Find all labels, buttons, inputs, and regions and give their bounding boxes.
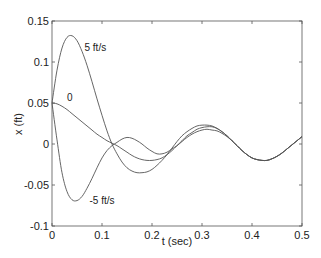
series-annotation: 5 ft/s	[85, 42, 107, 53]
x-tick-label: 0.5	[294, 229, 309, 241]
x-axis-label: t (sec)	[162, 235, 193, 247]
series-annotation: -5 ft/s	[90, 195, 115, 206]
y-tick-label: 0	[43, 138, 49, 150]
y-axis-label: x (ft)	[12, 113, 24, 135]
x-tick-label: 0.4	[244, 229, 259, 241]
y-tick-label: -0.05	[24, 179, 49, 191]
y-tick-labels: -0.1-0.0500.050.10.15	[24, 15, 49, 232]
x-tick-label: 0	[49, 229, 55, 241]
y-tick-label: 0.1	[34, 56, 49, 68]
y-tick-label: 0.05	[28, 97, 49, 109]
y-tick-label: -0.1	[30, 220, 49, 232]
series-annotation: 0	[67, 92, 73, 103]
x-tick-label: 0.3	[194, 229, 209, 241]
x-tick-label: 0.1	[94, 229, 109, 241]
y-tick-label: 0.15	[28, 15, 49, 27]
line-chart: 00.10.20.30.40.5 -0.1-0.0500.050.10.15 5…	[0, 0, 321, 258]
x-tick-label: 0.2	[144, 229, 159, 241]
